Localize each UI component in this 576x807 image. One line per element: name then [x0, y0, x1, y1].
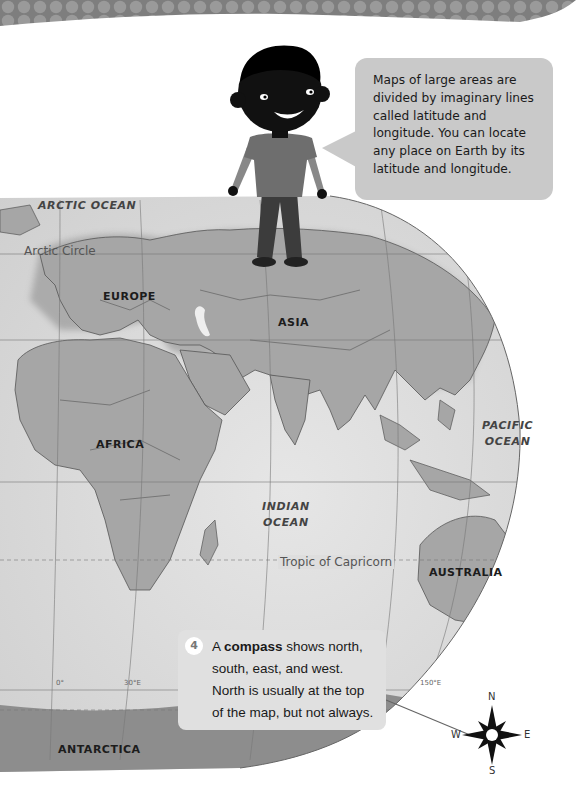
label-tropic-of-capricorn: Tropic of Capricorn: [278, 555, 394, 569]
label-europe: EUROPE: [103, 290, 156, 303]
compass-north: N: [488, 691, 495, 702]
info-text-prefix: A: [212, 639, 224, 654]
label-indian-line1: INDIAN: [262, 499, 310, 515]
speech-bubble-text: Maps of large areas are divided by imagi…: [373, 72, 541, 179]
info-box-text: A compass shows north, south, east, and …: [212, 636, 376, 724]
info-text-bold-term: compass: [224, 639, 283, 654]
label-indian-line2: OCEAN: [262, 515, 310, 531]
label-antarctica: ANTARCTICA: [58, 743, 141, 756]
speech-bubble: Maps of large areas are divided by imagi…: [355, 58, 553, 200]
longitude-label-150e: 150°E: [420, 679, 441, 687]
step-number-badge: 4: [185, 637, 203, 655]
label-asia: ASIA: [278, 316, 309, 329]
label-pacific-ocean: PACIFIC OCEAN: [482, 418, 533, 450]
compass-rose: N S E W: [452, 695, 532, 775]
label-arctic-ocean: ARCTIC OCEAN: [38, 198, 136, 214]
compass-south: S: [489, 765, 495, 776]
speech-bubble-tail: [322, 130, 358, 170]
label-pacific-line2: OCEAN: [482, 434, 533, 450]
label-indian-ocean: INDIAN OCEAN: [262, 499, 310, 531]
label-australia: AUSTRALIA: [429, 566, 503, 579]
compass-star-icon: [452, 695, 532, 775]
label-africa: AFRICA: [96, 438, 144, 451]
longitude-label-0: 0°: [56, 679, 64, 687]
label-pacific-line1: PACIFIC: [482, 418, 533, 434]
longitude-label-30e: 30°E: [124, 679, 141, 687]
compass-west: W: [451, 729, 461, 740]
compass-east: E: [524, 729, 530, 740]
info-box-compass: 4 A compass shows north, south, east, an…: [178, 630, 386, 730]
label-arctic-circle: Arctic Circle: [24, 244, 96, 258]
